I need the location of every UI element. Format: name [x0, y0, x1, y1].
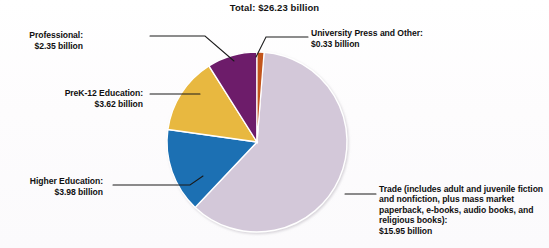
slice-label-university-press: University Press and Other: $0.33 billio… [311, 28, 521, 49]
slice-label-higher-education: Higher Education: $3.98 billion [0, 176, 103, 197]
slice-label-prek12-education: PreK-12 Education: $3.62 billion [0, 88, 143, 109]
slice-label-professional: Professional: $2.35 billion [0, 30, 83, 51]
pie-chart-figure: Total: $26.23 billion [0, 0, 549, 248]
slice-label-trade: Trade (includes adult and juvenile ficti… [379, 184, 549, 236]
pie-slice-group [167, 52, 347, 232]
leader-line-professional [150, 36, 234, 61]
